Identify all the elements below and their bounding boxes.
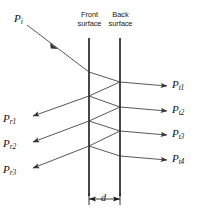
transmitted-ray-subscript-2: t2 [179, 108, 184, 117]
reflected-ray-label-1: Pr1 [3, 112, 16, 124]
incident-ray [27, 25, 89, 72]
incident-ray-label: Pi [14, 12, 23, 24]
transmitted-ray-symbol-2: P [172, 103, 179, 115]
transmitted-ray-subscript-4: t4 [179, 157, 184, 166]
reflected-ray-2 [33, 121, 89, 142]
reflected-ray-label-3: Pr3 [3, 163, 16, 175]
reflected-ray-subscript-3: r3 [10, 168, 16, 177]
reflected-rays [33, 96, 89, 168]
reflected-ray-label-2: Pr2 [3, 137, 16, 149]
transmitted-ray-label-3: Pt3 [172, 127, 184, 139]
transmitted-ray-3 [120, 131, 167, 135]
reflected-ray-subscript-1: r1 [10, 117, 16, 126]
transmitted-ray-subscript-3: t3 [179, 132, 184, 141]
transmitted-ray-label-2: Pt2 [172, 103, 184, 115]
transmitted-rays [120, 82, 167, 160]
ray-paths [89, 72, 120, 156]
incident-ray-subscript: i [21, 17, 23, 26]
transmitted-ray-label-1: Pt1 [172, 78, 184, 90]
transmitted-ray-subscript-1: t1 [179, 83, 184, 92]
reflected-ray-symbol-1: P [3, 112, 10, 124]
reflected-ray-subscript-2: r2 [10, 142, 16, 151]
transmitted-ray-label-4: Pt4 [172, 152, 184, 164]
reflected-ray-1 [33, 96, 89, 116]
transmitted-ray-4 [120, 156, 167, 160]
incident-ray-symbol: P [14, 12, 21, 24]
transmitted-ray-symbol-3: P [172, 127, 179, 139]
back-surface-label: Back surface [101, 10, 140, 28]
reflected-ray-symbol-3: P [3, 163, 10, 175]
transmitted-ray-symbol-4: P [172, 152, 179, 164]
transmitted-ray-1 [120, 82, 167, 86]
optics-ray-diagram: Front surface Back surface Pi Pr1 Pr2 Pr… [0, 0, 204, 215]
thickness-label: d [101, 192, 106, 203]
transmitted-ray-symbol-1: P [172, 78, 179, 90]
reflected-ray-symbol-2: P [3, 137, 10, 149]
reflected-ray-3 [33, 146, 89, 168]
transmitted-ray-2 [120, 107, 167, 111]
